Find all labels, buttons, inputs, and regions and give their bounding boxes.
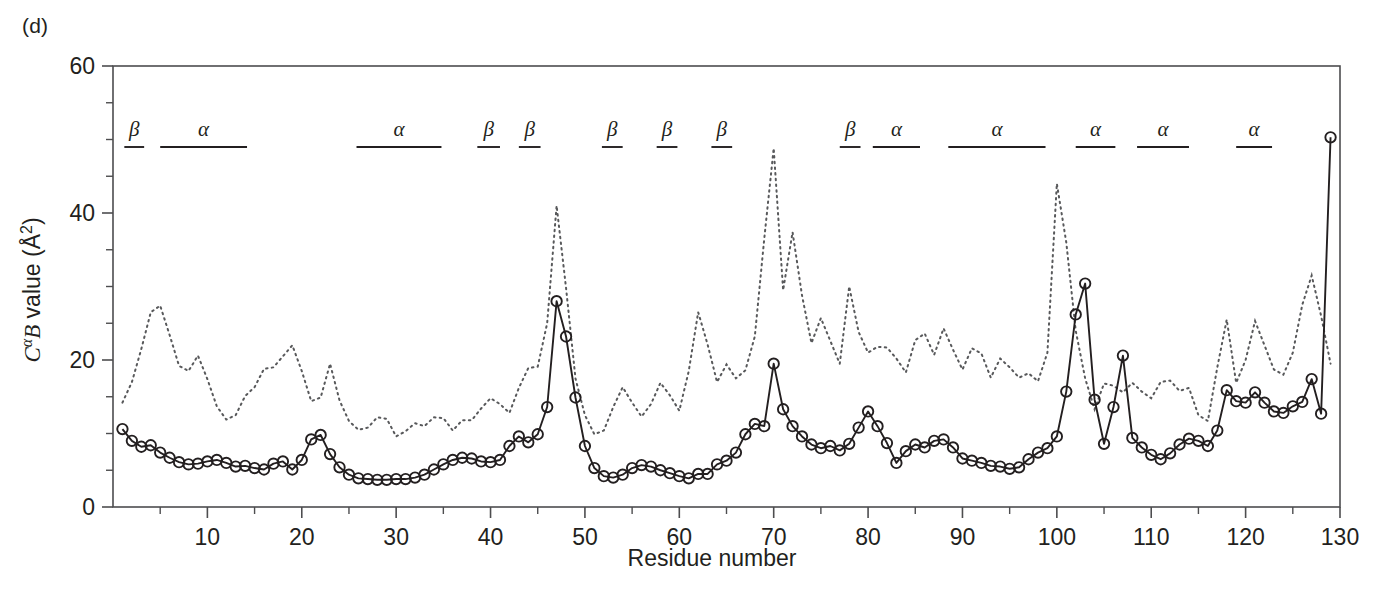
secondary-structure-helix-label: α [1158,117,1170,141]
series-observed-solid [122,137,1330,480]
x-tick-label: 10 [195,524,221,550]
x-tick-label: 40 [478,524,504,550]
x-tick-label: 110 [1133,524,1170,550]
x-tick-label: 80 [855,524,881,550]
x-tick-label: 50 [572,524,598,550]
b-factor-line-chart: 0204060 102030405060708090100110120130 β… [0,0,1392,596]
series-observed-markers [117,132,1336,485]
secondary-structure-helix-label: α [991,117,1003,141]
x-tick-label: 120 [1226,524,1264,550]
secondary-structure-strand-label: β [844,117,856,141]
series-reference-dotted [122,148,1330,436]
x-tick-label: 20 [289,524,315,550]
y-tick-label: 0 [82,494,95,520]
x-axis-ticks [160,507,1340,518]
secondary-structure-strand-label: β [716,117,728,141]
x-tick-label: 90 [950,524,976,550]
y-axis-title: CαB value (Å2) [18,217,46,362]
figure-panel: (d) 0204060 1020304050607080901001101201… [0,0,1392,596]
secondary-structure-helix-label: α [198,117,210,141]
secondary-structure-strand-label: β [523,117,535,141]
y-tick-label: 20 [69,347,95,373]
x-axis-title: Residue number [628,545,797,571]
y-tick-label: 60 [69,53,95,79]
secondary-structure-helix-label: α [393,117,405,141]
secondary-structure-strand-label: β [606,117,618,141]
x-tick-label: 130 [1321,524,1359,550]
y-axis-tick-labels: 0204060 [69,53,95,520]
x-tick-label: 100 [1038,524,1076,550]
secondary-structure-helix-label: α [1090,117,1102,141]
x-tick-label: 30 [383,524,409,550]
secondary-structure-helix-label: α [1249,117,1261,141]
secondary-structure-helix-label: α [891,117,903,141]
y-axis-ticks [102,66,113,507]
secondary-structure-strand-label: β [661,117,673,141]
secondary-structure-row: βααββββββααααα [124,117,1272,147]
y-tick-label: 40 [69,200,95,226]
secondary-structure-strand-label: β [482,117,494,141]
secondary-structure-strand-label: β [128,117,140,141]
svg-text:CαB value (Å2): CαB value (Å2) [18,217,46,362]
